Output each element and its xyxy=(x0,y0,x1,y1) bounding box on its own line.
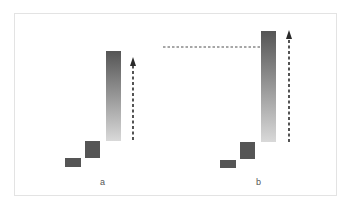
panel-b-up-arrow-icon xyxy=(286,30,292,142)
arrows-overlay xyxy=(0,0,357,211)
panel-a-up-arrow-icon xyxy=(130,57,136,140)
